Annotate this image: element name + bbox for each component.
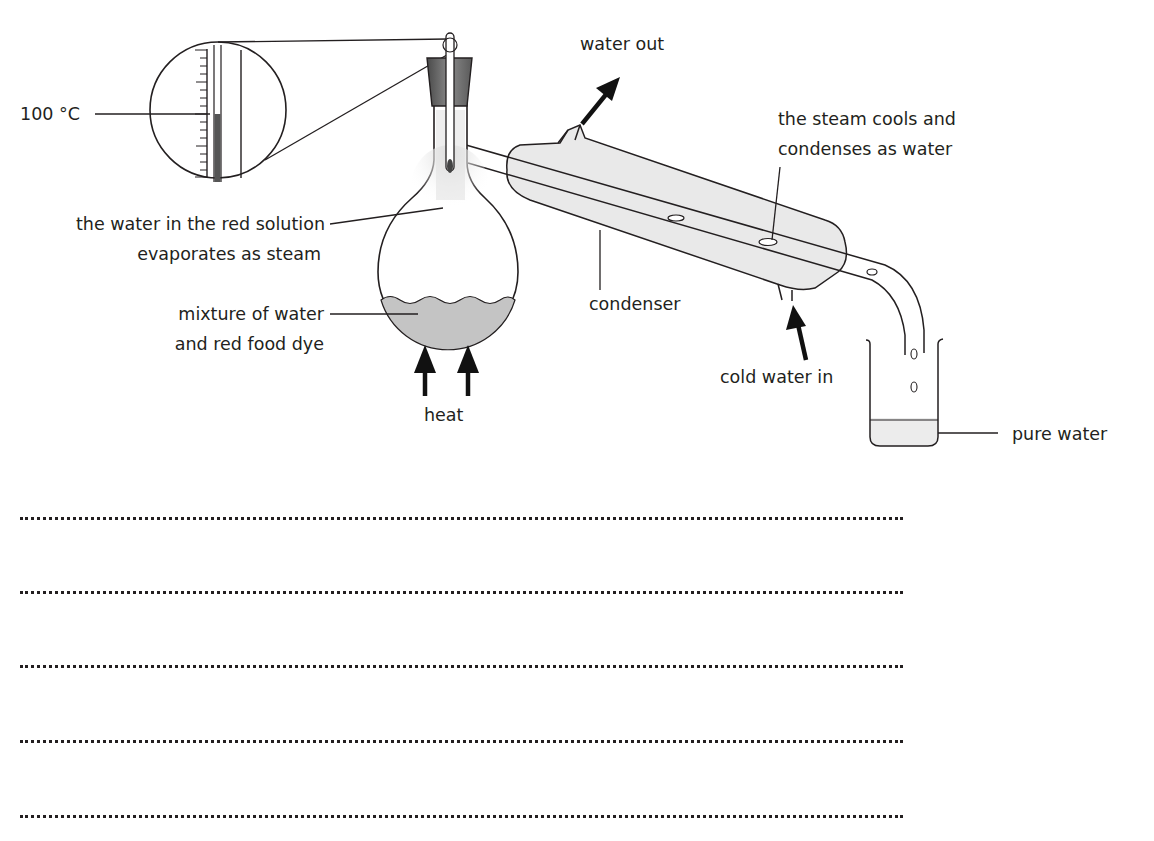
beaker — [866, 339, 943, 446]
answer-line-4[interactable] — [20, 740, 903, 743]
thermometer-reading-label: 100 °C — [20, 102, 80, 126]
steam-label-line2: evaporates as steam — [137, 242, 321, 266]
pure-water-label: pure water — [1012, 422, 1107, 446]
mixture-label-line2: and red food dye — [175, 332, 324, 356]
water-out-arrow-icon — [582, 77, 620, 124]
steam-cools-label-line2: condenses as water — [778, 137, 952, 161]
answer-line-1[interactable] — [20, 517, 903, 520]
mixture-label-line1: mixture of water — [178, 302, 324, 326]
magnified-thermometer-view — [95, 39, 452, 182]
heat-label: heat — [424, 403, 463, 427]
answer-line-3[interactable] — [20, 665, 903, 668]
cold-water-in-label: cold water in — [720, 365, 833, 389]
condenser-label: condenser — [589, 292, 680, 316]
steam-label-line1: the water in the red solution — [76, 212, 325, 236]
answer-line-2[interactable] — [20, 591, 903, 594]
cold-water-in-arrow-icon — [786, 305, 806, 360]
distillation-diagram — [0, 0, 1154, 480]
heat-arrow-icon — [414, 345, 479, 396]
answer-line-5[interactable] — [20, 815, 903, 818]
water-out-label: water out — [580, 32, 664, 56]
steam-cools-label-line1: the steam cools and — [778, 107, 956, 131]
